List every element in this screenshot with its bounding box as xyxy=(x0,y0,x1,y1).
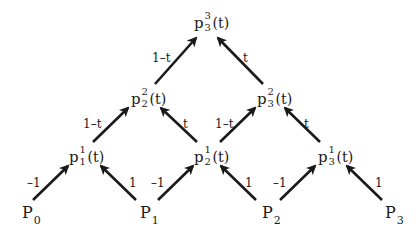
node-base: p xyxy=(194,14,204,32)
weight-top-right: t xyxy=(243,52,248,64)
node-sup: 2 xyxy=(142,87,148,97)
node-arg: (t) xyxy=(213,149,230,165)
weight-bottom-5: 1 xyxy=(375,177,383,189)
node-sup: 1 xyxy=(329,145,335,155)
node-p11: p11(t) xyxy=(69,148,104,166)
cp-base: P xyxy=(262,203,273,222)
node-sup: 1 xyxy=(80,145,86,155)
node-sub: 3 xyxy=(329,157,335,167)
arrow-p32-to-p33 xyxy=(218,38,263,84)
weight-top-left: 1–t xyxy=(152,52,170,64)
weight-bottom-2: –1 xyxy=(151,177,165,189)
node-indices: 12 xyxy=(205,148,212,166)
node-arg: (t) xyxy=(276,91,293,107)
node-indices: 33 xyxy=(205,14,212,32)
node-sup: 3 xyxy=(205,11,211,21)
control-point-P1: P1 xyxy=(140,205,159,221)
weight-bottom-3: 1 xyxy=(245,177,253,189)
arrows-layer xyxy=(0,0,418,238)
weight-bottom-1: 1 xyxy=(129,177,137,189)
node-arg: (t) xyxy=(150,91,167,107)
node-base: p xyxy=(257,90,267,108)
cp-base: P xyxy=(385,203,396,222)
node-indices: 13 xyxy=(329,148,336,166)
node-base: p xyxy=(194,148,204,166)
arrow-p31-to-p32 xyxy=(285,108,320,142)
node-p22: p22(t) xyxy=(131,90,166,108)
node-arg: (t) xyxy=(337,149,354,165)
arrow-p21-to-p22 xyxy=(161,108,197,142)
control-point-P0: P0 xyxy=(22,205,41,221)
weight-bottom-0: –1 xyxy=(27,177,41,189)
node-base: p xyxy=(69,148,79,166)
cp-sub: 3 xyxy=(397,214,404,227)
cp-sub: 0 xyxy=(34,214,41,227)
node-arg: (t) xyxy=(213,15,230,31)
weight-mid-2: 1–t xyxy=(215,118,233,130)
node-sub: 3 xyxy=(268,99,274,109)
node-indices: 22 xyxy=(142,90,149,108)
node-p21: p12(t) xyxy=(194,148,229,166)
node-sub: 3 xyxy=(205,23,211,33)
node-sub: 2 xyxy=(205,157,211,167)
node-base: p xyxy=(131,90,141,108)
cp-base: P xyxy=(22,203,33,222)
node-indices: 11 xyxy=(80,148,87,166)
cp-sub: 2 xyxy=(274,214,281,227)
weight-mid-1: t xyxy=(183,118,188,130)
cp-base: P xyxy=(140,203,151,222)
node-p31: p13(t) xyxy=(318,148,353,166)
weight-mid-3: t xyxy=(304,118,309,130)
node-arg: (t) xyxy=(88,149,105,165)
cp-sub: 1 xyxy=(152,214,159,227)
weight-mid-0: 1–t xyxy=(83,118,101,130)
control-point-P3: P3 xyxy=(385,205,404,221)
node-p32: p23(t) xyxy=(257,90,292,108)
node-sup: 1 xyxy=(205,145,211,155)
node-base: p xyxy=(318,148,328,166)
weight-bottom-4: –1 xyxy=(273,177,287,189)
node-sub: 2 xyxy=(142,99,148,109)
node-sup: 2 xyxy=(268,87,274,97)
control-point-P2: P2 xyxy=(262,205,281,221)
node-sub: 1 xyxy=(80,157,86,167)
node-indices: 23 xyxy=(268,90,275,108)
node-p33: p33(t) xyxy=(194,14,229,32)
